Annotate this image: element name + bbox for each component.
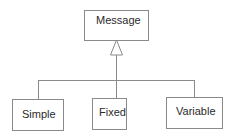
simple-class-box[interactable]: Simple — [12, 99, 64, 131]
fixed-class-label: Fixed — [99, 106, 126, 118]
fixed-class-box[interactable]: Fixed — [92, 98, 127, 130]
diagram-canvas: Message Simple Fixed Variable — [0, 0, 233, 137]
simple-class-label: Simple — [22, 108, 56, 120]
message-class-box[interactable]: Message — [84, 10, 149, 41]
message-class-label: Message — [96, 14, 141, 26]
variable-class-label: Variable — [176, 105, 216, 117]
variable-class-box[interactable]: Variable — [166, 97, 223, 129]
inheritance-triangle-icon — [111, 40, 123, 55]
